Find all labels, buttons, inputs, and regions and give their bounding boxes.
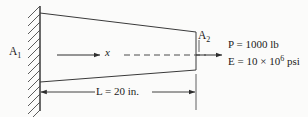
x-axis-label: x bbox=[105, 47, 110, 58]
area-label-a2: A2 bbox=[198, 30, 210, 42]
modulus-label-exponent: 6 bbox=[280, 54, 284, 63]
modulus-label-units: psi bbox=[284, 55, 300, 67]
modulus-label-base: 10 bbox=[266, 55, 280, 67]
wall-hatching bbox=[28, 6, 40, 117]
tapered-bar bbox=[40, 13, 196, 82]
modulus-label: E = 10 × 106 psi bbox=[228, 56, 300, 67]
tapered-bar-diagram: A1 A2 x L = 20 in. P = 1000 lb E = 10 × … bbox=[0, 0, 308, 117]
bar-top-edge bbox=[40, 13, 196, 32]
bar-bottom-edge bbox=[40, 70, 196, 82]
area-label-a1-subscript: 1 bbox=[17, 51, 21, 60]
modulus-label-prefix: E = 10 bbox=[228, 55, 260, 67]
force-label: P = 1000 lb bbox=[228, 39, 279, 50]
area-label-a2-subscript: 2 bbox=[206, 35, 210, 44]
length-label: L = 20 in. bbox=[96, 86, 139, 97]
wall-support bbox=[28, 6, 40, 117]
area-label-a1: A1 bbox=[9, 46, 21, 58]
